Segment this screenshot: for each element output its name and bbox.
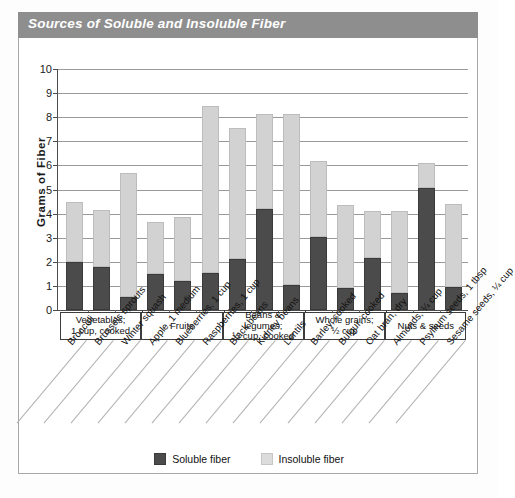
bar-segment-insoluble (418, 163, 435, 188)
legend-label-soluble: Soluble fiber (172, 453, 230, 465)
legend-item-insoluble: Insoluble fiber (261, 453, 344, 465)
y-tick-label: 7 (46, 135, 52, 147)
y-tick-mark (53, 69, 58, 70)
plot-wrapper: Grams of Fiber 012345678910 Vegetables;1… (19, 38, 479, 474)
bar-10 (310, 69, 327, 310)
category-leader-line (341, 340, 411, 423)
bar-segment-insoluble (174, 217, 191, 281)
bar-14 (418, 69, 435, 310)
category-leader-line (70, 340, 140, 423)
bar-segment-insoluble (310, 161, 327, 237)
y-tick-mark (53, 190, 58, 191)
bar-segment-insoluble (391, 211, 408, 293)
y-tick-mark (53, 93, 58, 94)
y-tick-mark (53, 238, 58, 239)
bar-segment-insoluble (120, 173, 137, 297)
y-tick-mark (53, 262, 58, 263)
bar-segment-insoluble (147, 222, 164, 274)
bar-1 (66, 69, 83, 310)
bar-segment-insoluble (202, 106, 219, 272)
bar-13 (391, 69, 408, 310)
y-tick-mark (53, 214, 58, 215)
category-leader-line (260, 340, 330, 423)
bar-segment-insoluble (445, 204, 462, 287)
chart-title: Sources of Soluble and Insoluble Fiber (28, 16, 285, 31)
legend-item-soluble: Soluble fiber (154, 453, 230, 465)
bar-segment-insoluble (93, 210, 110, 267)
bar-segment-soluble (310, 237, 327, 311)
bar-11 (337, 69, 354, 310)
chart-card: Sources of Soluble and Insoluble Fiber G… (18, 12, 478, 474)
category-labels: BroccoliBrussels sproutsWinter squashApp… (57, 340, 477, 460)
y-tick-label: 4 (46, 208, 52, 220)
y-tick-mark (53, 141, 58, 142)
category-leader-line (97, 340, 167, 423)
category-leader-line (16, 340, 86, 423)
y-tick-label: 9 (46, 87, 52, 99)
legend-label-insoluble: Insoluble fiber (279, 453, 344, 465)
bar-3 (120, 69, 137, 310)
y-tick-mark (53, 310, 58, 311)
category-leader-line (287, 340, 357, 423)
category-leader-line (368, 340, 438, 423)
legend-swatch-soluble (154, 453, 166, 465)
bar-2 (93, 69, 110, 310)
bar-4 (147, 69, 164, 310)
chart-body: Grams of Fiber 012345678910 Vegetables;1… (18, 38, 478, 474)
bar-6 (202, 69, 219, 310)
y-tick-mark (53, 117, 58, 118)
legend-swatch-insoluble (261, 453, 273, 465)
category-leader-line (314, 340, 384, 423)
bar-9 (283, 69, 300, 310)
chart-legend: Soluble fiber Insoluble fiber (19, 453, 479, 465)
category-leader-line (124, 340, 194, 423)
y-tick-label: 1 (46, 280, 52, 292)
y-tick-mark (53, 165, 58, 166)
bar-7 (229, 69, 246, 310)
y-tick-label: 10 (40, 63, 52, 75)
y-tick-label: 5 (46, 184, 52, 196)
y-tick-label: 0 (46, 304, 52, 316)
bar-5 (174, 69, 191, 310)
bar-segment-insoluble (283, 114, 300, 285)
y-tick-label: 3 (46, 232, 52, 244)
bar-segment-soluble (93, 267, 110, 310)
y-tick-label: 8 (46, 111, 52, 123)
bar-8 (256, 69, 273, 310)
bar-segment-insoluble (337, 205, 354, 288)
bar-12 (364, 69, 381, 310)
bar-15 (445, 69, 462, 310)
y-tick-mark (53, 286, 58, 287)
bar-segment-insoluble (229, 128, 246, 259)
bar-segment-soluble (256, 209, 273, 310)
chart-title-bar: Sources of Soluble and Insoluble Fiber (18, 12, 478, 38)
category-leader-line (395, 340, 465, 423)
bar-segment-soluble (66, 262, 83, 310)
y-tick-label: 2 (46, 256, 52, 268)
plot-area: 012345678910 (57, 69, 468, 311)
bar-segment-insoluble (256, 114, 273, 209)
category-leader-line (43, 340, 113, 423)
y-tick-label: 6 (46, 159, 52, 171)
bar-segment-insoluble (66, 202, 83, 262)
bar-segment-insoluble (364, 211, 381, 258)
